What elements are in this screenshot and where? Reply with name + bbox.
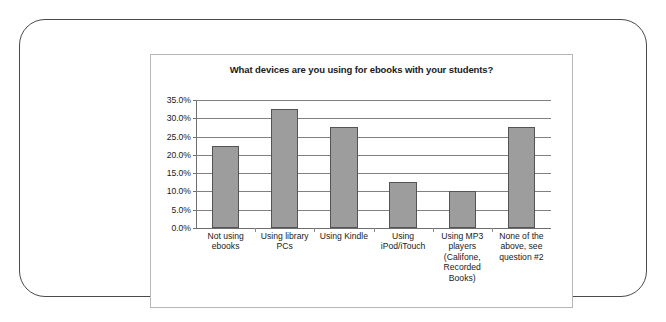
x-axis-label: Using iPod/iTouch — [374, 231, 433, 252]
y-tick-label: 30.0% — [167, 113, 191, 123]
y-tick-label: 0.0% — [171, 223, 191, 233]
chart-title: What devices are you using for ebooks wi… — [151, 64, 572, 75]
y-tick-mark — [193, 228, 196, 229]
bar-series — [196, 100, 551, 228]
x-axis-label: None of the above, see question #2 — [492, 231, 551, 262]
bar[interactable] — [449, 191, 476, 228]
x-axis-label: Using MP3 players (Califone, Recorded Bo… — [433, 231, 492, 283]
y-tick-label: 10.0% — [167, 186, 191, 196]
y-tick-label: 25.0% — [167, 132, 191, 142]
x-axis-labels: Not using ebooksUsing library PCsUsing K… — [196, 231, 551, 305]
chart-container: What devices are you using for ebooks wi… — [150, 54, 573, 308]
y-tick-label: 5.0% — [171, 205, 191, 215]
y-tick-label: 15.0% — [167, 168, 191, 178]
page-frame: What devices are you using for ebooks wi… — [19, 19, 647, 297]
bar[interactable] — [212, 146, 239, 228]
x-axis-label: Using Kindle — [314, 231, 373, 241]
y-tick-label: 20.0% — [167, 150, 191, 160]
bar[interactable] — [330, 127, 357, 228]
bar[interactable] — [508, 127, 535, 228]
x-axis-label: Using library PCs — [255, 231, 314, 252]
bar[interactable] — [271, 109, 298, 228]
bar[interactable] — [389, 182, 416, 228]
plot-area: 35.0%30.0%25.0%20.0%15.0%10.0%5.0%0.0% — [196, 100, 551, 228]
y-tick-label: 35.0% — [167, 95, 191, 105]
x-axis-label: Not using ebooks — [196, 231, 255, 252]
